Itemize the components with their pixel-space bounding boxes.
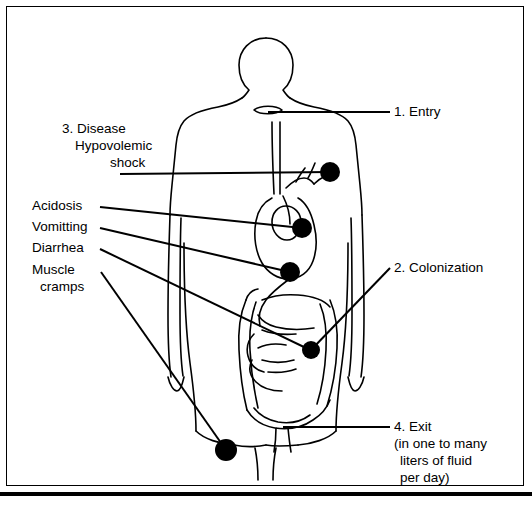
label-acidosis: Acidosis	[32, 198, 82, 215]
label-entry: 1. Entry	[394, 104, 441, 121]
small-intestine	[259, 280, 288, 326]
label-exit-line2: (in one to many	[394, 436, 487, 453]
label-disease-line3: shock	[110, 155, 145, 172]
leader-diarrhea	[100, 249, 306, 348]
leader-disease	[120, 172, 330, 174]
label-muscle-line2: cramps	[40, 279, 84, 296]
leader-vomitting	[100, 228, 290, 272]
label-exit-line1: 4. Exit	[394, 419, 432, 436]
esophagus	[272, 122, 274, 194]
bottom-rule	[0, 492, 532, 496]
bronchi	[286, 178, 314, 188]
figure-page: 1. Entry 3. Disease Hypovolemic shock Ac…	[0, 0, 532, 516]
head-outline	[239, 38, 266, 98]
left-arm-outline	[168, 215, 171, 377]
label-diarrhea: Diarrhea	[32, 240, 84, 257]
label-disease-line1: 3. Disease	[62, 121, 126, 138]
marker-dots	[215, 162, 340, 461]
label-muscle-line1: Muscle	[32, 262, 75, 279]
torso-outline	[170, 98, 242, 215]
label-exit-line4: per day)	[400, 470, 450, 487]
label-vomitting: Vomitting	[32, 219, 88, 236]
label-colonization: 2. Colonization	[394, 260, 483, 277]
leader-colonization	[311, 268, 390, 350]
leader-muscle-cramps	[101, 272, 226, 450]
label-disease-line2: Hypovolemic	[75, 138, 152, 155]
label-exit-line3: liters of fluid	[400, 453, 472, 470]
